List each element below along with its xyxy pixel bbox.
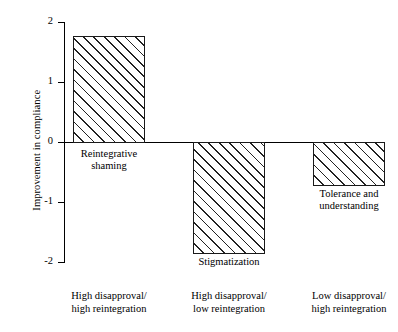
bar-caption-line1: Stigmatization xyxy=(169,256,289,268)
x-category-label-2-line2: low reintegration xyxy=(169,303,289,316)
x-category-label-3-line2: high reintegration xyxy=(289,303,398,316)
bar-caption-tolerance-understanding: Tolerance and understanding xyxy=(289,188,398,213)
x-category-label-2: High disapproval/ low reintegration xyxy=(169,290,289,315)
bar-chart: Improvement in compliance 2 1 0 -1 -2 Re… xyxy=(0,0,398,332)
y-tick-mark-0 xyxy=(58,142,64,143)
x-category-label-3-line1: Low disapproval/ xyxy=(289,290,398,303)
x-category-label-2-line1: High disapproval/ xyxy=(169,290,289,303)
bar-caption-reintegrative-shaming: Reintegrative shaming xyxy=(49,148,169,173)
y-tick-label-1: 1 xyxy=(13,76,53,87)
bar-caption-line1: Tolerance and xyxy=(289,188,398,200)
x-category-label-1-line1: High disapproval/ xyxy=(49,290,169,303)
y-tick-label-neg2: -2 xyxy=(13,256,53,267)
y-tick-label-neg1: -1 xyxy=(13,196,53,207)
x-category-label-1: High disapproval/ high reintegration xyxy=(49,290,169,315)
y-tick-mark-neg2 xyxy=(58,262,64,263)
y-tick-mark-1 xyxy=(58,82,64,83)
bar-reintegrative-shaming[interactable] xyxy=(73,36,145,143)
bar-caption-line2: shaming xyxy=(49,160,169,172)
x-category-label-3: Low disapproval/ high reintegration xyxy=(289,290,398,315)
bar-caption-line1: Reintegrative xyxy=(49,148,169,160)
bar-caption-line2: understanding xyxy=(289,200,398,212)
y-tick-label-2: 2 xyxy=(13,16,53,27)
bar-caption-stigmatization: Stigmatization xyxy=(169,256,289,268)
x-category-label-1-line2: high reintegration xyxy=(49,303,169,316)
bar-stigmatization[interactable] xyxy=(193,142,265,254)
y-tick-label-0: 0 xyxy=(13,136,53,147)
bar-tolerance-understanding[interactable] xyxy=(313,142,385,186)
y-tick-mark-2 xyxy=(58,22,64,23)
y-tick-mark-neg1 xyxy=(58,202,64,203)
